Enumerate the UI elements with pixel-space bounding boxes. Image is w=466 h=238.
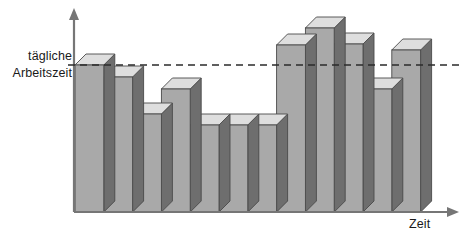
bar-10-side-face <box>363 33 374 212</box>
bar-1-side-face <box>104 54 115 212</box>
bar-chart-figure: tägliche Arbeitszeit Zeit <box>0 0 466 238</box>
bar-2-side-face <box>133 66 144 212</box>
bar-6-side-face <box>248 114 259 212</box>
bar-1-front-face <box>75 65 104 212</box>
bar-8-side-face <box>305 34 316 212</box>
bar-4-side-face <box>190 78 201 212</box>
threshold-label-line-1: tägliche <box>6 48 72 65</box>
y-axis-arrowhead <box>69 8 79 20</box>
bar-9-side-face <box>334 17 345 212</box>
bar-11-side-face <box>392 78 403 212</box>
bar-3-side-face <box>161 103 172 212</box>
x-axis-label-zeit: Zeit <box>409 216 430 233</box>
bar-5-side-face <box>219 114 230 212</box>
threshold-axis-label: tägliche Arbeitszeit <box>6 48 72 82</box>
bars-group <box>75 17 432 212</box>
chart-canvas <box>0 0 466 238</box>
threshold-label-line-2: Arbeitszeit <box>6 65 72 82</box>
bar-1 <box>75 54 115 212</box>
bar-7-side-face <box>277 114 288 212</box>
x-axis-arrowhead <box>447 207 459 217</box>
